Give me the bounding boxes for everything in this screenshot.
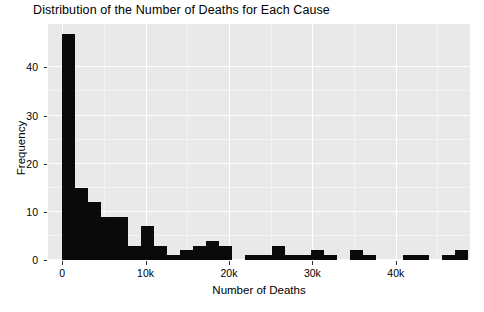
- histogram-bar: [219, 246, 232, 260]
- x-axis-tick-label: 0: [59, 267, 65, 279]
- histogram-bar: [259, 255, 272, 260]
- y-axis-tick-label: 40: [26, 61, 38, 73]
- histogram-bar: [128, 246, 141, 260]
- histogram-bar: [416, 255, 429, 260]
- x-axis-tick-mark: [229, 261, 230, 265]
- histogram-bar: [180, 250, 193, 260]
- histogram-bar: [154, 246, 167, 260]
- histogram-bar: [324, 255, 337, 260]
- histogram-bar: [442, 255, 455, 260]
- x-axis-tick-label: 10k: [137, 267, 154, 279]
- histogram-bar: [167, 255, 180, 260]
- histogram-bars: [48, 24, 470, 260]
- histogram-bar: [75, 188, 88, 260]
- histogram-bar: [285, 255, 298, 260]
- y-axis-tick-mark: [44, 212, 47, 213]
- y-axis-tick-mark: [44, 164, 47, 165]
- x-axis-tick-mark: [396, 261, 397, 265]
- histogram-bar: [455, 250, 468, 260]
- histogram-bar: [88, 202, 101, 260]
- y-axis-tick-label: 30: [26, 110, 38, 122]
- x-axis-tick-label: 20k: [221, 267, 238, 279]
- histogram-bar: [101, 217, 114, 260]
- histogram-bar: [403, 255, 416, 260]
- y-axis-tick-label: 0: [32, 254, 38, 266]
- x-axis-tick-label: 30k: [304, 267, 321, 279]
- chart-figure: Distribution of the Number of Deaths for…: [0, 0, 484, 312]
- histogram-bar: [350, 250, 363, 260]
- x-axis-tick-mark: [146, 261, 147, 265]
- x-axis-tick-mark: [62, 261, 63, 265]
- x-axis-tick-mark: [312, 261, 313, 265]
- x-axis-title: Number of Deaths: [48, 284, 470, 296]
- y-axis-tick-label: 10: [26, 206, 38, 218]
- y-axis-tick-mark: [44, 260, 47, 261]
- y-axis-title: Frequency: [15, 88, 27, 208]
- y-axis-tick-mark: [44, 116, 47, 117]
- y-axis-tick-label: 20: [26, 158, 38, 170]
- histogram-bar: [298, 255, 311, 260]
- histogram-bar: [193, 246, 206, 260]
- histogram-bar: [272, 246, 285, 260]
- histogram-bar: [115, 217, 128, 260]
- histogram-bar: [311, 250, 324, 260]
- histogram-bar: [363, 255, 376, 260]
- histogram-bar: [245, 255, 258, 260]
- histogram-bar: [62, 34, 75, 260]
- x-axis-tick-label: 40k: [387, 267, 404, 279]
- chart-title: Distribution of the Number of Deaths for…: [33, 3, 330, 17]
- histogram-bar: [206, 241, 219, 260]
- y-axis-tick-mark: [44, 67, 47, 68]
- histogram-bar: [141, 226, 154, 260]
- plot-panel: [48, 24, 470, 260]
